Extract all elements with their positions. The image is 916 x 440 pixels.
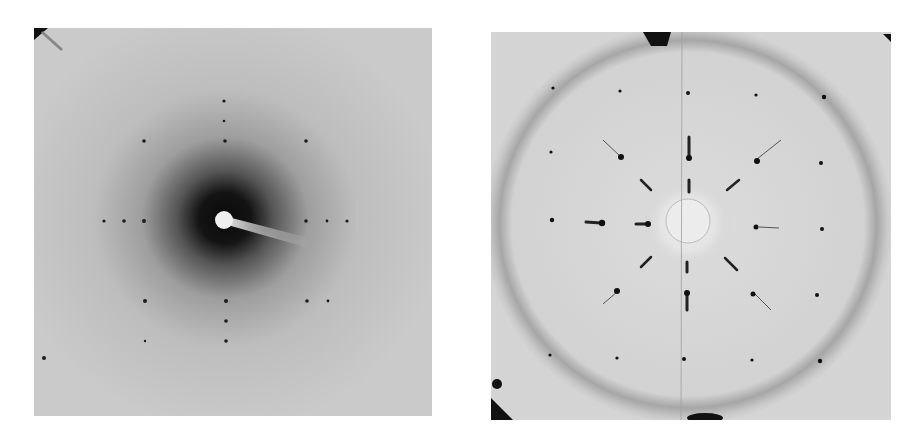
diffraction-pattern-right xyxy=(491,32,891,420)
diffraction-pattern-left xyxy=(34,28,432,416)
diffraction-image-right xyxy=(491,32,891,420)
diffraction-image-left xyxy=(34,28,432,416)
beam-stop xyxy=(215,211,233,229)
